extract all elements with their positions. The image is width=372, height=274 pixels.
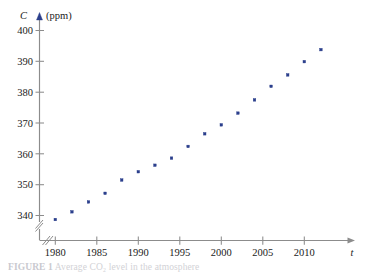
y-tick-label: 360	[17, 149, 33, 160]
y-tick-label: 340	[17, 210, 33, 221]
y-axis-unit-label: (ppm)	[46, 10, 72, 22]
data-point	[203, 132, 206, 135]
data-point	[270, 85, 273, 88]
y-tick-label: 400	[17, 25, 33, 36]
data-point	[237, 112, 240, 115]
data-point	[71, 211, 74, 214]
data-point	[137, 170, 140, 173]
y-axis-arrow-icon	[37, 13, 43, 21]
x-tick-label: 1980	[45, 247, 66, 258]
data-point	[286, 74, 289, 77]
y-tick-label: 390	[17, 56, 33, 67]
x-axis-variable-label: t	[351, 247, 355, 258]
data-point	[154, 164, 157, 167]
y-axis-variable-label: C	[20, 10, 28, 21]
data-point-group	[54, 48, 322, 220]
x-tick-label: 1990	[128, 247, 149, 258]
data-point	[54, 218, 57, 221]
data-point	[104, 192, 107, 195]
data-point	[170, 157, 173, 160]
x-tick-label: 2005	[252, 247, 273, 258]
x-tick-label: 2010	[294, 247, 315, 258]
figure-caption-text: Average CO₂ level in the atmosphere	[55, 262, 200, 272]
x-tick-label: 1995	[169, 247, 190, 258]
data-point	[187, 145, 190, 148]
data-point	[120, 179, 123, 182]
chart-plot-area: 400 390 380 370 360 350 340 C (ppm) 1980…	[0, 0, 372, 274]
x-tick-label: 1985	[86, 247, 107, 258]
figure-co2-scatter-chart: 400 390 380 370 360 350 340 C (ppm) 1980…	[0, 0, 372, 274]
y-tick-label: 350	[17, 179, 33, 190]
y-tick-label: 380	[17, 87, 33, 98]
data-point	[303, 60, 306, 63]
data-point	[320, 48, 323, 51]
figure-caption-label: FIGURE 1	[8, 262, 53, 272]
x-axis-arrow-icon	[348, 238, 356, 244]
data-point	[87, 201, 90, 204]
y-tick-label: 370	[17, 118, 33, 129]
data-point	[220, 124, 223, 127]
figure-caption: FIGURE 1 Average CO₂ level in the atmosp…	[8, 262, 368, 274]
x-tick-label: 2000	[211, 247, 232, 258]
data-point	[253, 99, 256, 102]
